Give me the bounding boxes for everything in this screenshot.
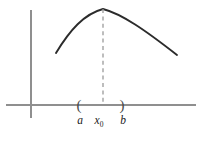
figure-container: ( ) a x0 b [0,0,204,142]
label-b: b [120,114,126,126]
function-plot-svg: ( ) a x0 b [0,0,204,142]
function-curve [56,9,177,55]
label-x0: x0 [94,114,104,129]
left-paren-mark: ( [77,97,82,114]
label-a: a [77,114,83,126]
right-paren-mark: ) [120,97,125,114]
label-x0-subscript: 0 [100,120,104,129]
